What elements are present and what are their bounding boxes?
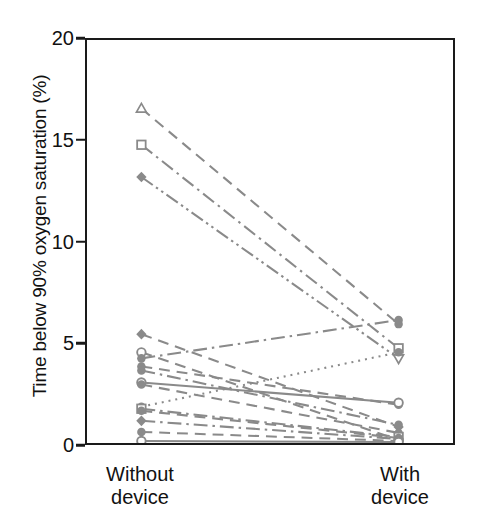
x-category-label-0: Without device [106, 463, 174, 509]
chart-figure: Time below 90% oxygen saturation (%) 051… [0, 0, 482, 527]
x-axis-category-labels: Without deviceWith device [0, 0, 482, 527]
x-category-label-1: With device [371, 463, 429, 509]
